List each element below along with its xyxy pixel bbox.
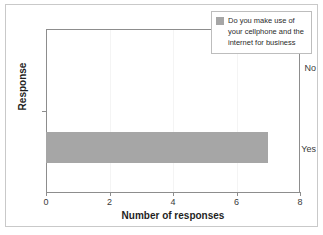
bar-yes <box>46 132 268 163</box>
x-axis-tick-2 <box>110 192 111 196</box>
legend-item-label: Do you make use of your cellphone and th… <box>228 16 307 49</box>
y-tick-label-yes: Yes <box>283 144 323 154</box>
y-axis-tick-mid <box>42 111 46 112</box>
y-axis-title: Response <box>17 27 28 147</box>
x-axis-tick-4 <box>173 192 174 196</box>
x-axis-title: Number of responses <box>46 210 300 221</box>
x-tick-label-6: 6 <box>225 197 249 207</box>
y-axis-line <box>46 29 47 192</box>
x-axis-tick-6 <box>237 192 238 196</box>
x-tick-label-2: 2 <box>98 197 122 207</box>
y-tick-label-no: No <box>283 63 323 73</box>
x-tick-label-4: 4 <box>161 197 185 207</box>
chart-figure: No Yes 0 2 4 6 8 Number of responses Res… <box>0 0 323 235</box>
legend-swatch-icon <box>216 17 224 25</box>
x-axis-tick-8 <box>300 192 301 196</box>
x-axis-tick-0 <box>46 192 47 196</box>
x-tick-label-0: 0 <box>34 197 58 207</box>
chart-legend: Do you make use of your cellphone and th… <box>211 11 312 54</box>
x-tick-label-8: 8 <box>288 197 312 207</box>
